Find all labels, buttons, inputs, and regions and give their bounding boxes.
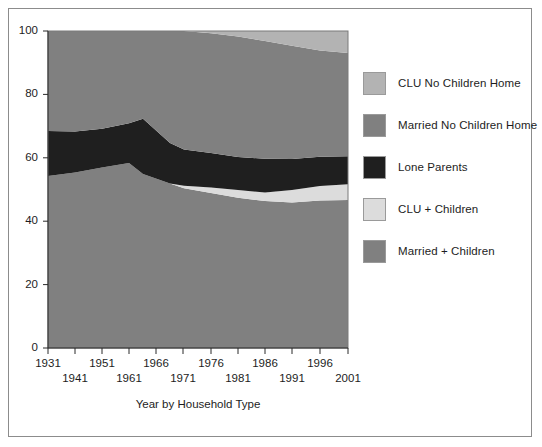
legend-item-label: Lone Parents — [398, 161, 468, 173]
y-tick-label-40: 40 — [8, 214, 38, 226]
x-tick-label-2001: 2001 — [328, 372, 368, 384]
plot-area — [48, 31, 348, 348]
legend-item-label: Married No Children Home — [398, 119, 537, 131]
legend-item-label: Married + Children — [398, 245, 495, 257]
legend-swatch-icon — [363, 240, 386, 263]
x-tick-label-1966: 1966 — [136, 357, 176, 369]
x-tick-label-1971: 1971 — [163, 372, 203, 384]
legend-swatch-icon — [363, 156, 386, 179]
legend-item-lone-parents[interactable]: Lone Parents — [363, 146, 533, 188]
y-tick-label-80: 80 — [8, 87, 38, 99]
legend-swatch-icon — [363, 114, 386, 137]
legend-item-label: CLU No Children Home — [398, 77, 521, 89]
x-tick-label-1941: 1941 — [55, 372, 95, 384]
y-tick-label-20: 20 — [8, 278, 38, 290]
y-tick-label-60: 60 — [8, 151, 38, 163]
legend-swatch-icon — [363, 198, 386, 221]
x-tick-label-1991: 1991 — [272, 372, 312, 384]
x-tick-label-1951: 1951 — [82, 357, 122, 369]
legend-item-married-plus-children[interactable]: Married + Children — [363, 230, 533, 272]
chart-figure: 100 80 60 40 20 0 1931 1951 1966 1976 19… — [0, 0, 542, 447]
x-tick-label-1961: 1961 — [109, 372, 149, 384]
y-tick-label-100: 100 — [8, 24, 38, 36]
x-axis-title: Year by Household Type — [48, 398, 348, 410]
legend-item-married-no-children-home[interactable]: Married No Children Home — [363, 104, 533, 146]
legend-item-label: CLU + Children — [398, 203, 478, 215]
x-tick-label-1996: 1996 — [300, 357, 340, 369]
x-tick-label-1981: 1981 — [218, 372, 258, 384]
x-tick-label-1986: 1986 — [245, 357, 285, 369]
legend-item-clu-plus-children[interactable]: CLU + Children — [363, 188, 533, 230]
x-tick-label-1931: 1931 — [28, 357, 68, 369]
legend-item-clu-no-children-home[interactable]: CLU No Children Home — [363, 62, 533, 104]
legend-swatch-icon — [363, 72, 386, 95]
x-tick-label-1976: 1976 — [191, 357, 231, 369]
y-tick-label-0: 0 — [8, 341, 38, 353]
chart-legend: CLU No Children Home Married No Children… — [363, 62, 533, 272]
